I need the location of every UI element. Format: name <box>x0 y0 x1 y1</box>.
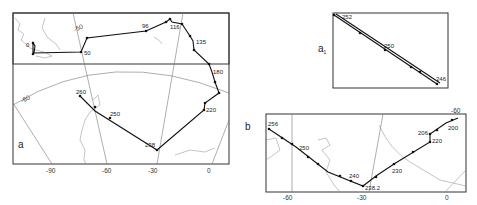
station-label-206: 206 <box>418 130 429 136</box>
coastline-antarctica <box>175 148 215 155</box>
station-label-50: 50 <box>84 50 91 56</box>
meridian-0 <box>212 120 229 164</box>
panel-b-letter: b <box>245 121 251 132</box>
x-tick-b-0: 0 <box>445 194 449 201</box>
x-tick-a-60: -60 <box>102 167 112 174</box>
station-label-96: 96 <box>142 23 149 29</box>
cruise-track-b <box>269 118 458 186</box>
meridian-b-0 <box>445 170 466 192</box>
figure-canvas: 0 50 96 116 135 180 220 238 250 260 -60 … <box>0 0 477 205</box>
x-tick-a-90: -90 <box>46 167 56 174</box>
station-label-246: 246 <box>436 76 447 82</box>
coastline-b-islands <box>318 138 340 192</box>
x-tick-b-30: -30 <box>357 194 367 201</box>
station-label-250: 250 <box>299 145 310 151</box>
lat-label-a-top: -50 <box>72 22 84 32</box>
station-label-238: 238 <box>145 142 156 148</box>
cruise-track-a <box>33 19 219 150</box>
station-label-250: 250 <box>384 43 395 49</box>
track-b-points <box>268 119 454 188</box>
station-label-260: 260 <box>76 89 87 95</box>
station-label-116: 116 <box>170 24 180 30</box>
x-tick-a-0: 0 <box>207 167 211 174</box>
station-label-230: 230 <box>392 168 403 174</box>
panel-a1-inset: 252 250 246 a1 <box>318 13 448 88</box>
station-label-220: 220 <box>206 107 217 113</box>
panel-a-map: 0 50 96 116 135 180 220 238 250 260 -60 … <box>13 13 229 174</box>
station-label-252: 252 <box>342 14 353 20</box>
x-tick-a-30: -30 <box>148 167 158 174</box>
station-label-256: 256 <box>268 121 279 127</box>
panel-a1-letter: a1 <box>318 43 327 55</box>
station-label-250: 250 <box>110 111 121 117</box>
panel-b-map: 256 250 240 238.2 230 220 206 200 -60 b … <box>245 107 466 201</box>
panel-a-letter: a <box>18 139 24 150</box>
coastline-patagonia <box>42 18 60 50</box>
meridian-90 <box>13 103 52 164</box>
track-a-points <box>32 18 221 152</box>
meridian-30 <box>157 13 183 164</box>
lat-label-a: -60 <box>19 93 31 103</box>
parallel-60 <box>13 72 229 105</box>
coastline-south-georgia <box>154 37 162 44</box>
coastline-b-west <box>266 138 280 160</box>
station-label-135: 135 <box>196 39 207 45</box>
station-label-238-2: 238.2 <box>365 185 381 191</box>
x-tick-b-60: -60 <box>283 194 293 201</box>
station-label-240: 240 <box>349 173 360 179</box>
station-label-200: 200 <box>448 125 459 131</box>
lat-label-b: -60 <box>451 107 461 114</box>
station-label-220: 220 <box>432 138 443 144</box>
station-label-180: 180 <box>213 69 224 75</box>
panel-b-frame <box>266 114 466 192</box>
